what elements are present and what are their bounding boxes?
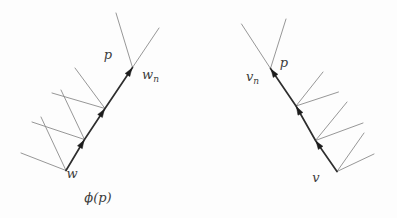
branch-line bbox=[116, 13, 133, 68]
branch-line bbox=[52, 93, 105, 109]
tree-path bbox=[66, 68, 133, 171]
p-label-right: p bbox=[280, 55, 289, 70]
tree-path bbox=[271, 69, 338, 172]
branch-line bbox=[337, 154, 374, 172]
branch-line bbox=[133, 28, 160, 68]
path-arrowhead bbox=[296, 107, 302, 115]
phi-p-label: ϕ(p) bbox=[84, 190, 111, 205]
branch-line bbox=[242, 24, 271, 69]
right-tree: pvnv bbox=[242, 19, 375, 185]
branch-line bbox=[75, 68, 105, 109]
wn-label: wn bbox=[142, 67, 159, 84]
p-label-left: p bbox=[104, 47, 113, 62]
path-arrowhead bbox=[77, 140, 84, 148]
left-tree: pwnwϕ(p) bbox=[21, 13, 159, 205]
branch-line bbox=[296, 72, 323, 106]
tree-diagram: pwnwϕ(p)pvnv bbox=[0, 0, 397, 218]
vn-label: vn bbox=[246, 69, 259, 86]
v-label: v bbox=[312, 170, 320, 185]
path-arrowhead bbox=[271, 69, 278, 77]
diagram-page: pwnwϕ(p)pvnv bbox=[0, 0, 397, 218]
branch-line bbox=[32, 122, 85, 140]
w-label: w bbox=[66, 166, 77, 181]
branch-line bbox=[61, 90, 85, 140]
path-arrowhead bbox=[125, 68, 132, 76]
path-arrowhead bbox=[98, 109, 105, 117]
branch-line bbox=[337, 133, 364, 172]
branch-line bbox=[296, 92, 339, 106]
